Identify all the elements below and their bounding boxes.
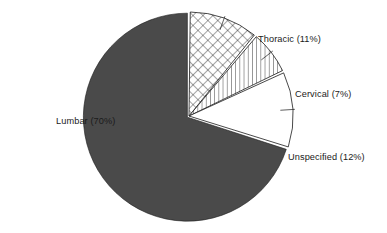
slice-label-cervical: Cervical (7%) [295,89,351,99]
pie-chart-figure: Thoracic (11%) Cervical (7%) Unspecified… [0,0,387,233]
slice-label-thoracic: Thoracic (11%) [258,34,321,44]
pie-chart-svg: Thoracic (11%) Cervical (7%) Unspecified… [0,0,387,233]
slice-label-lumbar: Lumbar (70%) [56,116,115,126]
slice-label-unspecified: Unspecified (12%) [288,152,365,162]
